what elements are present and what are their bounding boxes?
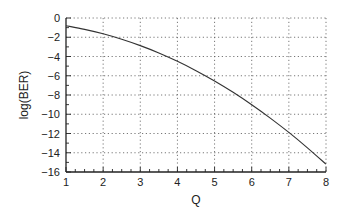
x-tick-label: 5 <box>212 176 218 188</box>
x-tick-label: 6 <box>249 176 255 188</box>
y-tick-label: −14 <box>41 147 60 159</box>
ber-chart: 12345678 0−2−4−6−8−10−12−14−16 Q log(BER… <box>0 0 343 218</box>
x-tick-label: 1 <box>63 176 69 188</box>
y-tick-label: −10 <box>41 108 60 120</box>
x-tick-label: 4 <box>174 176 180 188</box>
y-tick-label: −8 <box>47 89 60 101</box>
x-axis-label: Q <box>191 193 200 207</box>
y-tick-label: −6 <box>47 70 60 82</box>
y-tick-label: −12 <box>41 128 60 140</box>
x-tick-label: 8 <box>323 176 329 188</box>
y-axis-label: log(BER) <box>17 71 31 120</box>
grid-lines <box>66 18 326 172</box>
x-tick-label: 2 <box>100 176 106 188</box>
y-tick-label: −16 <box>41 166 60 178</box>
y-tick-labels: 0−2−4−6−8−10−12−14−16 <box>41 12 60 178</box>
x-tick-label: 7 <box>286 176 292 188</box>
x-tick-labels: 12345678 <box>63 176 329 188</box>
x-tick-label: 3 <box>137 176 143 188</box>
y-tick-label: −4 <box>47 51 60 63</box>
y-tick-label: −2 <box>47 31 60 43</box>
y-tick-label: 0 <box>54 12 60 24</box>
